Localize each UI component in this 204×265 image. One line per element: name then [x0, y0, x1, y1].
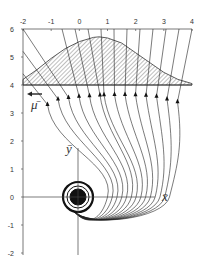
y-tick-label: 1: [10, 166, 14, 173]
y-tick-label: 4: [10, 82, 14, 89]
origin-axes: [23, 148, 155, 255]
x-tick-label: 1: [106, 18, 110, 25]
arrowhead-icon: [165, 96, 169, 101]
x-tick-label: -2: [20, 18, 26, 25]
arrowhead-icon: [98, 92, 102, 97]
hatched-region: [23, 37, 192, 85]
arrowhead-icon: [123, 92, 127, 97]
x-tick-label: 3: [162, 18, 166, 25]
y-tick-label: 3: [10, 110, 14, 117]
arrowhead-icon: [113, 92, 117, 97]
y-tick-label: 6: [10, 26, 14, 33]
arrowhead-icon: [46, 102, 50, 107]
x-tick-label: -1: [48, 18, 54, 25]
arrowhead-icon: [155, 93, 159, 98]
x-tick-label: 0: [77, 18, 81, 25]
arrowhead-icon: [176, 99, 180, 104]
y-tick-label: 5: [10, 54, 14, 61]
arrowhead-icon: [144, 92, 148, 97]
y-tick-labels: 6543210-1-2: [8, 26, 23, 257]
y-tick-label: 2: [10, 138, 14, 145]
diagram-figure: -2-101234 6543210-1-2 x̄ ȳ μ̄: [0, 0, 204, 265]
y-tick-label: -1: [8, 222, 14, 229]
arrowhead-icon: [77, 93, 81, 98]
x-tick-label: 2: [134, 18, 138, 25]
y-tick-label: -2: [8, 250, 14, 257]
flow-arrow: [27, 92, 42, 97]
x-tick-label: 4: [190, 18, 194, 25]
arrowhead-icon: [134, 92, 138, 97]
y-tick-label: 0: [10, 194, 14, 201]
flow-label: μ̄: [30, 97, 42, 112]
arrowhead-icon: [102, 92, 106, 97]
x-axis-label: x̄: [161, 189, 168, 204]
arrow-left-icon: [27, 92, 32, 97]
arrowhead-icon: [87, 93, 91, 98]
y-axis-label: ȳ: [64, 141, 72, 156]
